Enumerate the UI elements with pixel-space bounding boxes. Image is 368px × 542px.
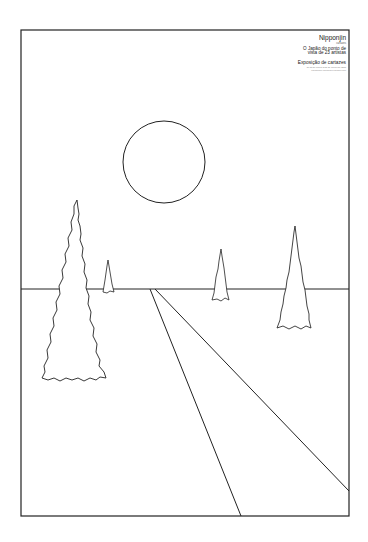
poster-artwork [0,0,368,542]
road-line-left [150,289,241,516]
large-left-tree [42,200,106,381]
poster-title: Nipponjin [298,35,346,42]
right-tree [277,226,311,329]
middle-tree [212,249,229,301]
road-line-right [155,289,349,491]
poster-description-line2: vista de 23 artistas [298,51,346,56]
poster-fine-print-line2: xxxxxxxxxx xxxxxxxxx xxxxxxx xxxx [298,69,346,71]
sun-circle [123,121,205,203]
poster-caption: Nipponjin cartazes O Japão do ponto de v… [298,35,346,71]
poster: Nipponjin cartazes O Japão do ponto de v… [0,0,368,542]
small-far-tree [103,260,114,293]
poster-event: Exposição de cartazes [298,60,346,65]
